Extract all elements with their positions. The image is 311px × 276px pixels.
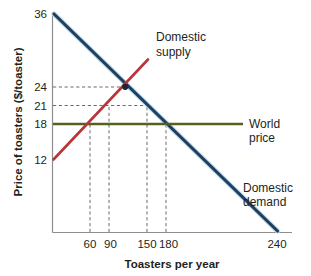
y-tick-12: 12	[34, 154, 47, 166]
label-domestic-demand: Domestic demand	[243, 181, 293, 209]
x-tick-240: 240	[267, 238, 286, 250]
y-tick-18: 18	[34, 118, 47, 130]
x-axis-title: Toasters per year	[124, 258, 220, 270]
domestic-demand-label-line1: Domestic	[243, 181, 293, 195]
label-world-price: World price	[249, 117, 280, 145]
world-price-label-line1: World	[249, 117, 280, 131]
equilibrium-point	[122, 84, 128, 90]
y-axis-title: Price of toasters ($/toaster)	[12, 47, 24, 196]
domestic-supply-label-line2: supply	[156, 45, 191, 59]
label-domestic-supply: Domestic supply	[156, 30, 206, 59]
series-domestic-supply	[54, 60, 149, 160]
y-tick-36: 36	[34, 8, 47, 20]
chart-canvas: 36 24 21 18 12 60 90 150 180 240 Price o…	[0, 0, 311, 276]
y-tick-24: 24	[34, 81, 47, 93]
world-price-label-line2: price	[249, 131, 275, 145]
x-tick-90: 90	[104, 238, 117, 250]
x-tick-60: 60	[84, 238, 97, 250]
x-axis-tick-labels: 60 90 150 180 240	[84, 238, 287, 250]
x-tick-180: 180	[159, 238, 178, 250]
economics-supply-demand-chart: 36 24 21 18 12 60 90 150 180 240 Price o…	[0, 0, 311, 276]
domestic-supply-label-line1: Domestic	[156, 30, 206, 44]
y-tick-21: 21	[34, 100, 47, 112]
y-axis-tick-labels: 36 24 21 18 12	[34, 8, 47, 166]
x-tick-150: 150	[137, 238, 156, 250]
domestic-supply-line	[54, 60, 149, 160]
domestic-demand-label-line2: demand	[243, 195, 286, 209]
